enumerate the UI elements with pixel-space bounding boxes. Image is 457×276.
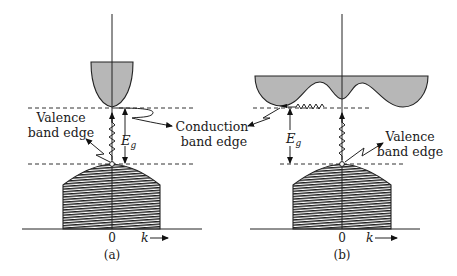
conduction-label-a-line2: band edge	[181, 134, 247, 149]
k-label-b: k	[366, 230, 374, 245]
origin-label-b: 0	[338, 231, 346, 245]
eg-label-a: Eg	[120, 133, 137, 150]
conduction-label-a-line1: Conduction	[176, 119, 249, 134]
origin-label-a: 0	[108, 231, 116, 245]
band-diagram-figure: Eg Valence band edge Conduction band edg…	[0, 0, 457, 276]
conduction-pointer-a	[116, 108, 172, 126]
conduction-pointer-b	[248, 108, 280, 126]
caption-a: (a)	[104, 248, 121, 262]
hole-marker-a	[110, 162, 115, 167]
valence-label-a-line2: band edge	[28, 125, 94, 140]
valence-pointer-a	[86, 139, 110, 162]
hole-marker-b	[340, 162, 345, 167]
k-label-a: k	[141, 230, 149, 245]
panel-b: Eg Valence band edge 0 k (b)	[248, 14, 443, 262]
valence-label-b-line2: band edge	[377, 144, 443, 159]
eg-label-b: Eg	[285, 131, 302, 148]
caption-b: (b)	[333, 248, 350, 262]
valence-label-a-line1: Valence	[35, 110, 85, 125]
panel-a: Eg Valence band edge Conduction band edg…	[22, 14, 248, 262]
valence-label-b-line1: Valence	[384, 129, 434, 144]
